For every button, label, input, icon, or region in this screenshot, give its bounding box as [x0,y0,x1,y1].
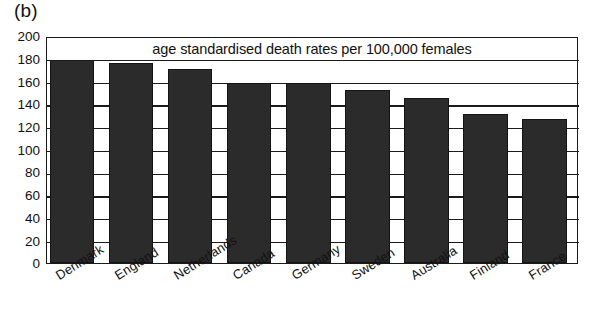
y-axis: 020406080100120140160180200 [0,37,46,264]
x-axis: DenmarkEnglandNetherlandsCanadaGermanySw… [46,264,578,327]
y-tick-label: 120 [17,121,46,135]
bar-finland [463,114,508,263]
bar-netherlands [168,69,213,263]
y-tick-label: 60 [25,189,46,203]
y-tick-label: 100 [17,143,46,157]
bar-sweden [345,90,390,263]
bar-france [522,119,567,263]
y-tick-label: 80 [25,166,46,180]
y-tick-label: 160 [17,75,46,89]
y-tick-label: 180 [17,52,46,66]
panel-label: (b) [14,1,38,20]
chart-title: age standardised death rates per 100,000… [47,38,577,61]
y-tick-label: 40 [25,211,46,225]
y-tick-label: 200 [17,30,46,44]
bar-england [109,63,154,263]
bar-australia [404,98,449,263]
plot-area: age standardised death rates per 100,000… [46,37,578,264]
bar-series [47,38,577,263]
y-tick-label: 20 [25,234,46,248]
bar-denmark [50,60,95,263]
bar-germany [286,83,331,263]
y-tick-label: 140 [17,98,46,112]
y-tick-label: 0 [32,257,46,271]
figure-panel-b: (b) 020406080100120140160180200 age stan… [0,0,590,327]
